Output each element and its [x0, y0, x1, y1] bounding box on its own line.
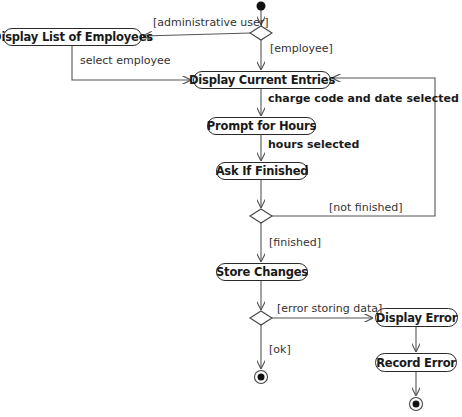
action-prompt-for-hours: Prompt for Hours	[207, 117, 316, 135]
action-display-current-entries: Display Current Entries	[193, 71, 331, 89]
decision-store-result	[250, 311, 272, 325]
decision-finished	[250, 209, 272, 223]
final-node-ok	[255, 371, 268, 384]
initial-node	[257, 2, 266, 11]
action-display-error: Display Error	[375, 308, 458, 327]
action-record-error: Record Error	[375, 353, 457, 372]
label-select-employee: select employee	[80, 54, 170, 67]
label-error-storing-data: [error storing data]	[277, 302, 382, 315]
label-finished: [finished]	[269, 236, 321, 249]
label-ok: [ok]	[269, 343, 291, 356]
label-charge-code-selected: charge code and date selected	[268, 92, 459, 105]
label-administrative-user: [administrative user]	[153, 16, 269, 29]
label-employee: [employee]	[270, 42, 333, 55]
final-node-error	[410, 398, 423, 411]
action-display-list-of-employees: Display List of Employees	[3, 28, 142, 46]
label-hours-selected: hours selected	[268, 138, 359, 151]
action-ask-if-finished: Ask If Finished	[216, 162, 308, 180]
action-store-changes: Store Changes	[216, 263, 308, 281]
label-not-finished: [not finished]	[329, 201, 403, 214]
